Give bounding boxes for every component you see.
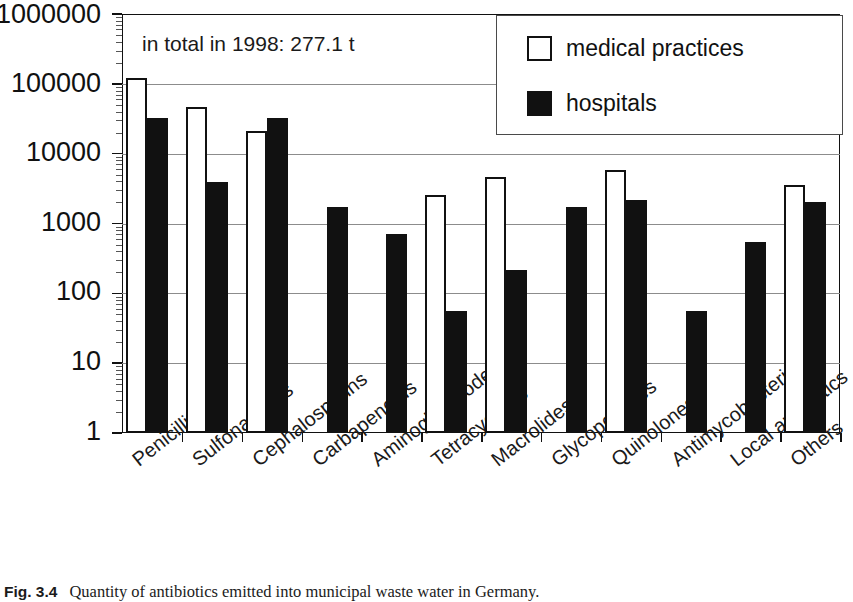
legend-entry-hospitals: hospitals [527,90,657,117]
bar-penicillins-medical-practices [126,78,147,433]
bar-penicillins-hospitals [147,118,168,433]
legend-swatch-open-square-icon [527,36,552,61]
bar-sulfonamides-hospitals [207,182,228,433]
y-tick-label-10000: 10000 [26,139,101,166]
bar-antimycobacterial-hospitals [686,311,707,433]
y-tick-10000 [112,153,122,155]
y-tick-1000 [112,223,122,225]
bar-quinolones-medical-practices [605,170,626,433]
x-axis-category-labels: PenicillinsSulfonamidesCephalosporinsCar… [0,433,846,573]
bar-macrolides-medical-practices [485,177,506,433]
bar-aminoglycosodes-hospitals [386,234,407,433]
bar-tetracyclines-medical-practices [425,195,446,433]
bar-cephalosporins-hospitals [267,118,288,433]
y-tick-label-1000000: 1000000 [0,1,101,28]
bar-quinolones-hospitals [626,200,647,433]
legend-swatch-filled-square-icon [527,91,552,116]
legend-label-hospitals: hospitals [566,90,657,117]
bar-carbapenems-hospitals [327,207,348,433]
total-annotation: in total in 1998: 277.1 t [142,32,355,56]
bar-sulfonamides-medical-practices [186,107,207,433]
y-tick-100000 [112,83,122,85]
y-tick-label-1000: 1000 [41,209,101,236]
bar-tetracyclines-hospitals [446,311,467,433]
legend-label-medical-practices: medical practices [566,35,744,62]
figure-caption: Fig. 3.4Quantity of antibiotics emitted … [4,582,844,602]
bar-local-antibiotics-hospitals [745,242,766,433]
y-tick-label-100000: 100000 [11,70,101,97]
bar-others-medical-practices [784,185,805,433]
y-tick-label-100: 100 [56,278,101,305]
legend-entry-medical-practices: medical practices [527,35,744,62]
y-tick-1000000 [112,13,122,15]
legend: medical practices hospitals [496,15,843,135]
bar-macrolides-hospitals [506,270,527,433]
bar-cephalosporins-medical-practices [246,131,267,433]
y-tick-label-10: 10 [71,348,101,375]
y-tick-100 [112,293,122,295]
y-tick-10 [112,362,122,364]
bar-glycopeptides-hospitals [566,207,587,433]
bar-others-hospitals [805,202,826,433]
figure-number: Fig. 3.4 [4,583,57,600]
figure-caption-text: Quantity of antibiotics emitted into mun… [69,582,539,601]
